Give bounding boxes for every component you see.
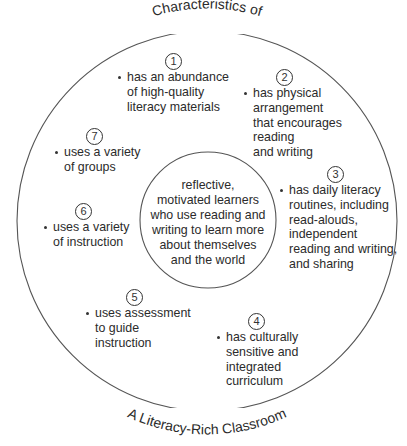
center-line: reflective, [140,178,276,193]
center-line: about themselves [140,238,276,253]
number-badge-2: 2 [276,69,293,86]
number-badge-3: 3 [327,166,344,183]
number-badge-7: 7 [86,128,103,145]
characteristic-3: has daily literacy routines, including r… [280,183,397,272]
bullet-item: has an abundance of high-quality literac… [118,70,229,114]
bullet-item: uses a variety of instruction [44,220,129,250]
number-badge-5: 5 [126,289,143,306]
center-description: reflective, motivated learners who use r… [140,178,276,267]
characteristic-6: uses a variety of instruction [44,220,129,250]
number-badge-1: 1 [165,53,182,70]
bullet-item: has daily literacy routines, including r… [280,183,397,272]
bullet-item: has physical arrangement that encourages… [244,86,342,160]
number-badge-6: 6 [75,203,92,220]
bullet-item: uses a variety of groups [55,145,140,175]
center-line: who use reading and [140,208,276,223]
number-badge-4: 4 [248,313,265,330]
bullet-item: uses assessment to guide instruction [86,306,191,350]
characteristic-7: uses a variety of groups [55,145,140,175]
center-line: motivated learners [140,193,276,208]
center-line: and the world [140,253,276,268]
characteristic-2: has physical arrangement that encourages… [244,86,342,160]
characteristic-1: has an abundance of high-quality literac… [118,70,229,114]
center-line: writing to learn more [140,223,276,238]
characteristic-4: has culturally sensitive and integrated … [217,330,298,389]
characteristic-5: uses assessment to guide instruction [86,306,191,350]
bullet-item: has culturally sensitive and integrated … [217,330,298,389]
